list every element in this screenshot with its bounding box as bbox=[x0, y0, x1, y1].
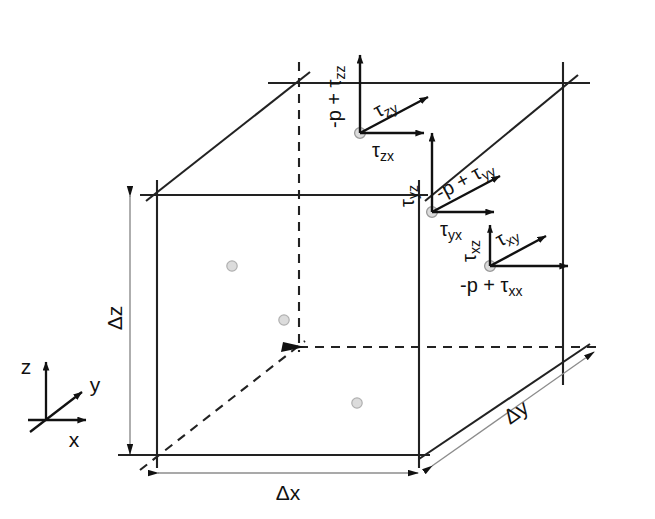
y-face-shear-yx-label: τyx bbox=[440, 218, 462, 243]
coordinate-axis-triad: z y x bbox=[21, 355, 101, 451]
x-face-stress-group: τxz τxy -p + τxx bbox=[458, 221, 568, 299]
x-face-shear-xz-label: τxz bbox=[458, 240, 483, 262]
x-face-shear-xy-label: τxy bbox=[492, 221, 523, 253]
z-face-shear-zx-label: τzx bbox=[372, 139, 394, 164]
stress-element-diagram: Δz Δx Δy -p + τzz τzy τzx bbox=[0, 0, 655, 519]
dimension-label-dz: Δz bbox=[103, 306, 126, 331]
axis-label-y: y bbox=[90, 373, 101, 396]
axis-label-z: z bbox=[21, 355, 32, 378]
dimension-label-dx: Δx bbox=[276, 481, 301, 504]
axis-label-x: x bbox=[69, 428, 80, 451]
z-face-normal-label: -p + τzz bbox=[323, 66, 348, 128]
cube-edge-topleft-receding bbox=[146, 72, 310, 201]
hidden-edge-bottomleft-receding bbox=[140, 341, 305, 470]
y-face-normal-label: -p + τyy bbox=[432, 155, 499, 206]
face-center-dot-back bbox=[279, 315, 289, 325]
dimension-lines bbox=[130, 196, 594, 473]
cube-edge-bottomright-receding bbox=[419, 344, 590, 459]
face-center-dot-bottom bbox=[352, 398, 362, 408]
dimension-label-dy: Δy bbox=[499, 395, 533, 428]
z-face-stress-group: -p + τzz τzy τzx bbox=[323, 55, 428, 164]
axis-y-arrow bbox=[30, 392, 82, 432]
y-face-stress-group: τyz -p + τyy τyx bbox=[396, 133, 500, 243]
face-center-dot-left bbox=[227, 261, 237, 271]
x-face-normal-label: -p + τxx bbox=[460, 274, 522, 299]
